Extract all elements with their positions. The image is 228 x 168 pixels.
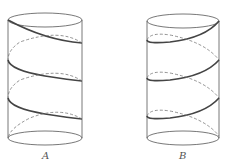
cylinder-a [8,13,82,145]
cylinder-b-bottom-ellipse [147,131,219,145]
cylinder-b-top-ellipse [147,14,219,28]
cylinder-b-label: B [179,150,186,161]
cylinder-a-bottom-ellipse [8,131,82,145]
cylinder-a-label: A [42,150,49,161]
cylinder-a-helix [8,20,82,138]
cylinder-b-helix [147,21,219,136]
helix-cylinders-figure [0,0,228,168]
cylinder-b [147,14,219,145]
